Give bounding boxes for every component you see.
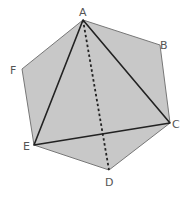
vertex-label-d: D	[105, 176, 113, 189]
vertex-label-f: F	[10, 64, 16, 77]
vertex-label-b: B	[160, 39, 168, 52]
vertex-label-e: E	[23, 140, 30, 153]
hexagon-diagram: A B C D E F	[0, 0, 190, 197]
vertex-label-c: C	[172, 118, 180, 131]
vertex-label-a: A	[79, 6, 87, 19]
